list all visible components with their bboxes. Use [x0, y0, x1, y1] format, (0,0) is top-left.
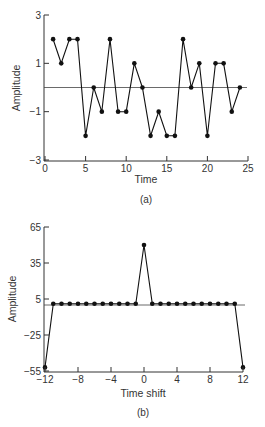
- data-point-marker: [133, 302, 138, 307]
- chart-b-y-ticks: 65355−25−55: [24, 222, 49, 377]
- x-tick-label: −8: [72, 374, 84, 385]
- data-point-marker: [109, 302, 114, 307]
- data-point-marker: [181, 37, 186, 42]
- figure: 0510152025 31−1−3 Time Amplitude (a) −12…: [0, 0, 265, 427]
- data-point-marker: [67, 302, 72, 307]
- x-tick-label: 25: [242, 163, 254, 174]
- chart-a-ylabel: Amplitude: [10, 65, 22, 112]
- data-point-marker: [140, 85, 145, 90]
- data-point-marker: [51, 302, 56, 307]
- data-point-marker: [165, 134, 170, 139]
- x-tick-label: 10: [121, 163, 133, 174]
- data-point-marker: [213, 61, 218, 66]
- data-point-marker: [158, 302, 163, 307]
- x-tick-label: 5: [83, 163, 89, 174]
- x-tick-label: 12: [237, 374, 249, 385]
- y-tick-label: −3: [30, 155, 42, 166]
- chart-a-xlabel: Time: [135, 173, 158, 185]
- chart-b-ylabel: Amplitude: [6, 276, 18, 323]
- data-point-marker: [84, 302, 89, 307]
- y-tick-label: 65: [30, 222, 42, 233]
- chart-b-series-line: [45, 245, 243, 367]
- data-point-marker: [224, 302, 229, 307]
- data-point-marker: [183, 302, 188, 307]
- data-point-marker: [116, 109, 121, 114]
- data-point-marker: [150, 302, 155, 307]
- x-tick-label: −4: [105, 374, 117, 385]
- x-tick-label: 0: [42, 163, 48, 174]
- data-point-marker: [51, 37, 56, 42]
- chart-a-x-ticks: 0510152025: [42, 156, 254, 174]
- x-tick-label: 8: [207, 374, 213, 385]
- y-tick-label: 3: [35, 10, 41, 21]
- data-point-marker: [166, 302, 171, 307]
- y-tick-label: −55: [24, 366, 41, 377]
- data-point-marker: [191, 302, 196, 307]
- chart-b-x-ticks: −12−8−404812: [37, 367, 249, 385]
- y-tick-label: 35: [30, 258, 42, 269]
- x-tick-label: 20: [202, 163, 214, 174]
- data-point-marker: [91, 85, 96, 90]
- data-point-marker: [205, 134, 210, 139]
- data-point-marker: [100, 109, 105, 114]
- data-point-marker: [173, 134, 178, 139]
- y-tick-label: −25: [24, 330, 41, 341]
- data-point-marker: [199, 302, 204, 307]
- data-point-marker: [156, 109, 161, 114]
- data-point-marker: [75, 37, 80, 42]
- data-point-marker: [229, 109, 234, 114]
- data-point-marker: [216, 302, 221, 307]
- data-point-marker: [208, 302, 213, 307]
- data-point-marker: [125, 302, 130, 307]
- y-tick-label: −1: [30, 106, 42, 117]
- data-point-marker: [148, 134, 153, 139]
- data-point-marker: [238, 85, 243, 90]
- data-point-marker: [197, 61, 202, 66]
- data-point-marker: [221, 61, 226, 66]
- data-point-marker: [117, 302, 122, 307]
- data-point-marker: [142, 243, 147, 248]
- data-point-marker: [76, 302, 81, 307]
- data-point-marker: [232, 302, 237, 307]
- data-point-marker: [124, 109, 129, 114]
- data-point-marker: [132, 61, 137, 66]
- data-point-marker: [92, 302, 97, 307]
- chart-a: 0510152025 31−1−3 Time Amplitude (a): [10, 10, 254, 206]
- data-point-marker: [67, 37, 72, 42]
- chart-a-caption: (a): [140, 194, 152, 205]
- data-point-marker: [175, 302, 180, 307]
- x-tick-label: 4: [174, 374, 180, 385]
- data-point-marker: [189, 85, 194, 90]
- data-point-marker: [83, 134, 88, 139]
- chart-b-caption: (b): [137, 407, 149, 418]
- chart-b-markers: [43, 243, 246, 370]
- data-point-marker: [59, 302, 64, 307]
- data-point-marker: [59, 61, 64, 66]
- chart-a-axes: [44, 15, 248, 161]
- chart-b-xlabel: Time shift: [120, 387, 165, 399]
- y-tick-label: 1: [35, 58, 41, 69]
- y-tick-label: 5: [35, 294, 41, 305]
- data-point-marker: [100, 302, 105, 307]
- x-tick-label: 0: [141, 374, 147, 385]
- x-tick-label: 15: [161, 163, 173, 174]
- chart-b: −12−8−404812 65355−25−55 Time shift Ampl…: [6, 222, 249, 419]
- data-point-marker: [108, 37, 113, 42]
